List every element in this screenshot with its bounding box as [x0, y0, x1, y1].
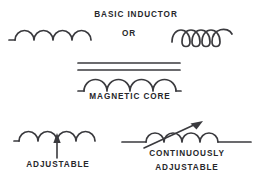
continuously-adjustable-label-line1: CONTINUOUSLY: [122, 149, 252, 158]
basic-inductor-label: BASIC INDUCTOR: [84, 10, 188, 19]
continuous-adjust-arrow-head: [191, 121, 204, 130]
magnetic-core-label: MAGNETIC CORE: [70, 92, 190, 101]
magnetic-core-inductor-symbol: [76, 60, 184, 96]
inductor-coil-arcs: [15, 31, 91, 41]
inductor-loop-coil: [172, 29, 232, 46]
continuously-adjustable-inductor-symbol: [120, 118, 254, 148]
inductor-coil-arcs: [146, 133, 218, 142]
basic-inductor-arc-symbol: [6, 22, 96, 44]
continuously-adjustable-label-line2: ADJUSTABLE: [122, 163, 252, 172]
continuous-adjust-arrow-shaft: [144, 124, 196, 148]
adjustable-label: ADJUSTABLE: [8, 160, 108, 169]
adjustable-inductor-symbol: [12, 124, 104, 158]
inductor-coil-arcs: [84, 80, 176, 92]
or-label: OR: [116, 29, 142, 38]
basic-inductor-loop-symbol: [166, 22, 252, 48]
inductor-symbols-figure: BASIC INDUCTOR OR MAGNETIC CORE ADJUSTAB…: [0, 0, 257, 182]
